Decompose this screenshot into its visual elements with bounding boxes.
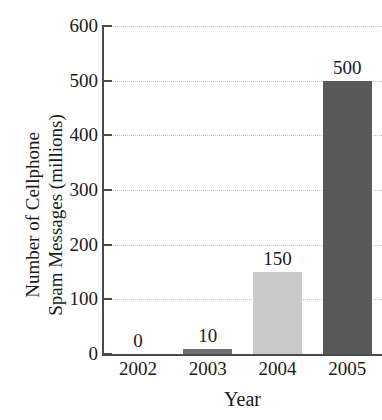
y-axis-tick bbox=[103, 189, 112, 191]
bar bbox=[253, 272, 302, 354]
x-axis-title: Year bbox=[103, 388, 382, 410]
x-axis-tick-label: 2003 bbox=[168, 358, 248, 380]
x-axis-tick-label: 2002 bbox=[98, 358, 178, 380]
y-axis-title-line-1: Number of Cellphone bbox=[21, 50, 44, 380]
x-axis-tick-label: 2005 bbox=[307, 358, 382, 380]
y-axis-tick bbox=[103, 25, 112, 27]
y-axis-tick bbox=[103, 353, 112, 355]
bar-chart: 010150500 0100200300400500600 2002200320… bbox=[0, 0, 382, 420]
bar-value-label: 150 bbox=[237, 249, 317, 268]
bar bbox=[323, 81, 372, 354]
x-axis-tick-label: 2004 bbox=[237, 358, 317, 380]
x-axis-line bbox=[102, 354, 382, 356]
bars-group: 010150500 bbox=[103, 26, 382, 354]
y-axis-tick bbox=[103, 134, 112, 136]
y-axis-tick bbox=[103, 298, 112, 300]
y-axis-title-line-2: Spam Messages (millions) bbox=[44, 50, 67, 380]
y-axis-tick-label: 600 bbox=[46, 16, 98, 35]
bar-value-label: 0 bbox=[98, 331, 178, 350]
y-axis-tick bbox=[103, 80, 112, 82]
y-axis-title: Number of Cellphone Spam Messages (milli… bbox=[21, 50, 67, 380]
bar-value-label: 10 bbox=[168, 326, 248, 345]
x-axis-tick-labels-group: 2002200320042005 bbox=[103, 358, 382, 384]
y-axis-tick bbox=[103, 244, 112, 246]
bar-value-label: 500 bbox=[307, 58, 382, 77]
